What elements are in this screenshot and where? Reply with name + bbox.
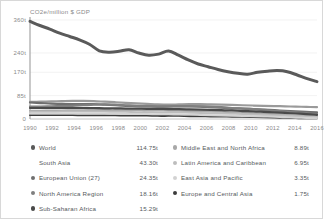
y-axis-tick-label: 360t [14,17,27,23]
legend-item[interactable]: Latin America and Caribbean6.95t [173,155,315,170]
legend-item-label: North America Region [39,190,104,197]
x-axis-tick-label: 2014 [288,125,302,131]
legend-item-label: Sub-Saharan Africa [39,205,96,212]
y-axis-tick-label: 240t [14,50,27,56]
legend-item-label: European Union (27) [39,174,100,181]
legend-item-label: South Asia [39,159,71,166]
y-axis-tick-label: 0 [22,116,26,122]
legend-item-label: Latin America and Caribbean [181,159,266,166]
legend-item-value: 43.30t [140,159,158,166]
line-chart-svg: 085t170t240t360t199019921994199619982000… [1,1,324,139]
legend-color-dot-icon [173,145,177,149]
legend-color-dot-icon [31,191,35,195]
legend-item-label: Middle East and North Africa [181,144,265,151]
x-axis-tick-label: 1998 [111,125,125,131]
chart-legend: World114.75tSouth Asia43.30tEuropean Uni… [1,140,324,220]
legend-item-label: East Asia and Pacific [181,174,243,181]
x-axis-tick-label: 2002 [156,125,170,131]
x-axis-tick-label: 1990 [23,125,37,131]
legend-color-dot-icon [31,206,35,210]
legend-item-value: 114.75t [136,144,158,151]
legend-color-dot-icon [173,191,177,195]
legend-column-right: Middle East and North Africa8.89tLatin A… [173,140,315,201]
chart-area: CO2e/million $ GDP 085t170t240t360t19901… [1,1,324,139]
legend-item-value: 15.29t [140,205,158,212]
legend-item-label: Europe and Central Asia [181,190,253,197]
x-axis-tick-label: 2008 [222,125,236,131]
legend-item-value: 1.75t [294,190,309,197]
legend-item[interactable]: South Asia43.30t [31,155,166,170]
x-axis-tick-label: 2012 [266,125,280,131]
legend-color-dot-icon [31,176,35,180]
legend-color-dot-icon [31,145,35,149]
legend-item-value: 8.89t [294,144,309,151]
legend-item-label: World [39,144,56,151]
legend-item[interactable]: European Union (27)24.35t [31,170,166,185]
legend-item-value: 24.35t [140,174,158,181]
x-axis-tick-label: 2000 [134,125,148,131]
y-axis-tick-label: 85t [17,93,26,99]
x-axis-tick-label: 1994 [67,125,81,131]
x-axis-tick-label: 2016 [310,125,324,131]
legend-color-dot-icon [173,176,177,180]
legend-item[interactable]: Europe and Central Asia1.75t [173,186,315,201]
legend-item[interactable]: Middle East and North Africa8.89t [173,140,315,155]
legend-item-value: 6.95t [294,159,309,166]
legend-color-dot-icon [31,161,35,165]
legend-item[interactable]: North America Region18.16t [31,186,166,201]
legend-item[interactable]: East Asia and Pacific3.35t [173,170,315,185]
x-axis-tick-label: 2010 [244,125,258,131]
x-axis-tick-label: 2006 [200,125,214,131]
legend-item[interactable]: Sub-Saharan Africa15.29t [31,201,166,216]
y-axis-tick-label: 170t [14,69,27,75]
x-axis-tick-label: 1992 [45,125,59,131]
legend-column-left: World114.75tSouth Asia43.30tEuropean Uni… [31,140,166,216]
x-axis-tick-label: 2004 [178,125,192,131]
x-axis-tick-label: 1996 [89,125,103,131]
legend-item[interactable]: World114.75t [31,140,166,155]
legend-color-dot-icon [173,161,177,165]
legend-item-value: 3.35t [294,174,309,181]
legend-item-value: 18.16t [140,190,158,197]
